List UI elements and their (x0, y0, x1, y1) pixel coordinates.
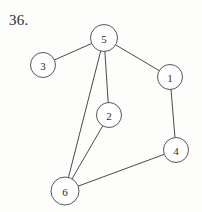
graph-node-5[interactable]: 5 (91, 25, 118, 52)
graph-figure: 36. 123456 (0, 0, 202, 212)
graph-canvas: 123456 (0, 0, 202, 212)
graph-edge-5-6 (68, 51, 100, 177)
graph-node-6[interactable]: 6 (51, 177, 79, 205)
graph-edge-2-6 (72, 126, 103, 179)
graph-edge-5-1 (116, 45, 160, 71)
graph-edge-5-3 (54, 43, 91, 59)
graph-edge-5-2 (105, 51, 108, 102)
node-label-2: 2 (106, 110, 112, 122)
node-label-5: 5 (101, 33, 107, 45)
node-label-3: 3 (40, 60, 46, 72)
node-label-6: 6 (62, 186, 68, 198)
graph-node-1[interactable]: 1 (158, 65, 183, 90)
nodes-layer: 123456 (31, 25, 189, 206)
graph-node-2[interactable]: 2 (97, 103, 122, 128)
graph-node-4[interactable]: 4 (164, 138, 189, 163)
graph-node-3[interactable]: 3 (31, 53, 56, 78)
node-label-4: 4 (173, 145, 179, 157)
node-label-1: 1 (167, 72, 173, 84)
graph-edge-1-4 (171, 89, 175, 137)
graph-edge-4-6 (78, 154, 164, 186)
